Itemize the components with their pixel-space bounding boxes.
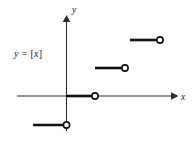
equation-label: y=[x]	[13, 48, 42, 59]
open-circle-1	[122, 65, 128, 71]
x-axis-arrowhead	[171, 92, 179, 100]
y-axis-label: y	[71, 5, 77, 15]
equation-equals: =	[22, 48, 28, 59]
step-function-figure: x y y=[x]	[0, 0, 194, 148]
figure-canvas: x y y=[x]	[0, 0, 194, 148]
open-circle-minus-1	[63, 122, 69, 128]
x-axis-label: x	[180, 92, 186, 102]
open-circle-0	[92, 93, 98, 99]
equation-y-var: y	[13, 48, 19, 59]
open-circle-2	[157, 37, 163, 43]
equation-bracket-close: ]	[39, 48, 43, 59]
y-axis-arrowhead	[63, 15, 71, 22]
